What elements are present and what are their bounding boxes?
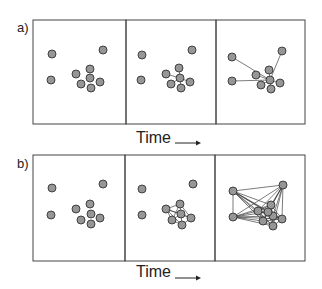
node-dot — [278, 47, 286, 55]
node-dot — [47, 211, 55, 219]
node-dot — [278, 215, 286, 223]
node-dot — [138, 211, 146, 219]
node-dot — [177, 84, 185, 92]
node-dot — [176, 200, 184, 208]
node-dot — [188, 46, 196, 54]
node-dot — [175, 64, 183, 72]
node-dot — [189, 180, 197, 188]
node-dot — [267, 85, 275, 93]
diagram-canvas — [0, 0, 322, 289]
node-dot — [259, 217, 267, 225]
node-dot — [99, 180, 107, 188]
arrow-right-icon — [175, 141, 201, 146]
panel-b-2 — [125, 155, 215, 261]
connection-line — [270, 51, 282, 80]
panel-b-3 — [215, 155, 305, 261]
node-dot — [266, 76, 274, 84]
node-dot — [229, 213, 237, 221]
node-dot — [167, 80, 175, 88]
node-dot — [87, 210, 95, 218]
node-dot — [77, 216, 85, 224]
panel-a-2 — [126, 20, 216, 124]
node-dot — [138, 51, 146, 59]
node-dot — [257, 81, 265, 89]
node-dot — [186, 78, 194, 86]
node-dot — [168, 216, 176, 224]
node-dot — [86, 200, 94, 208]
node-dot — [264, 208, 272, 216]
panel-a-3 — [216, 20, 305, 124]
connection-line — [282, 185, 283, 219]
node-dot — [47, 76, 55, 84]
panel-b-1 — [33, 155, 125, 261]
node-dot — [99, 46, 107, 54]
node-dot — [228, 53, 236, 61]
node-dot — [177, 210, 185, 218]
node-dot — [87, 84, 95, 92]
node-dot — [72, 70, 80, 78]
node-dot — [265, 66, 273, 74]
node-dot — [178, 221, 186, 229]
arrow-right-icon — [175, 276, 201, 281]
node-dot — [252, 71, 260, 79]
node-dot — [162, 205, 170, 213]
node-dot — [162, 70, 170, 78]
node-dot — [276, 79, 284, 87]
node-dot — [48, 184, 56, 192]
node-dot — [77, 80, 85, 88]
node-dot — [48, 50, 56, 58]
node-dot — [87, 220, 95, 228]
node-dot — [96, 214, 104, 222]
node-dot — [187, 214, 195, 222]
node-dot — [86, 65, 94, 73]
panel-a-1 — [33, 20, 126, 124]
connection-line — [232, 80, 270, 81]
node-dot — [228, 77, 236, 85]
node-dot — [72, 205, 80, 213]
node-dot — [86, 74, 94, 82]
node-dot — [137, 76, 145, 84]
node-dot — [96, 78, 104, 86]
node-dot — [279, 181, 287, 189]
node-dot — [176, 74, 184, 82]
node-dot — [138, 185, 146, 193]
node-dot — [229, 187, 237, 195]
connection-line — [232, 57, 270, 80]
node-dot — [254, 207, 262, 215]
node-dot — [269, 222, 277, 230]
